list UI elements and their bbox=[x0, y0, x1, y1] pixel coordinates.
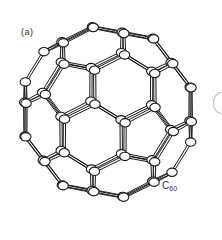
carbon-atom bbox=[150, 103, 160, 111]
carbon-atom bbox=[120, 119, 130, 127]
carbon-atom bbox=[149, 178, 159, 186]
bond bbox=[153, 130, 172, 160]
carbon-atom bbox=[186, 118, 196, 126]
carbon-atom bbox=[185, 138, 195, 146]
carbon-atom bbox=[186, 84, 196, 92]
carbon-atom bbox=[89, 167, 99, 175]
carbon-atom bbox=[168, 59, 178, 67]
bond bbox=[24, 51, 43, 81]
carbon-atom bbox=[40, 90, 50, 98]
carbon-atom bbox=[21, 99, 31, 107]
carbon-atom bbox=[90, 100, 100, 108]
carbon-atom bbox=[89, 188, 99, 196]
panel-label: (a) bbox=[21, 27, 34, 37]
carbon-atom bbox=[89, 66, 99, 74]
bond bbox=[171, 142, 190, 172]
carbon-atom bbox=[167, 168, 177, 176]
carbon-atom bbox=[120, 152, 130, 160]
carbon-atom bbox=[119, 51, 129, 59]
carbon-atom bbox=[58, 181, 68, 189]
carbon-atom bbox=[20, 78, 30, 86]
bond bbox=[154, 131, 173, 161]
carbon-atom bbox=[118, 193, 128, 201]
carbon-atom bbox=[150, 69, 160, 77]
molecule-label: C60 bbox=[162, 180, 177, 192]
carbon-atom bbox=[168, 127, 178, 135]
adjacent-panel-fragment bbox=[213, 92, 222, 114]
carbon-atom bbox=[59, 149, 69, 157]
bond bbox=[173, 143, 192, 173]
carbon-atom bbox=[40, 157, 50, 165]
carbon-atom bbox=[39, 47, 49, 55]
carbon-atom bbox=[21, 133, 31, 141]
bond bbox=[26, 52, 45, 82]
carbon-atom bbox=[59, 60, 69, 68]
molecule-label-subscript: 60 bbox=[169, 185, 177, 192]
carbon-atom bbox=[88, 23, 98, 31]
carbon-atom bbox=[58, 39, 68, 47]
bond bbox=[44, 64, 63, 94]
bond bbox=[44, 63, 63, 93]
carbon-atom bbox=[59, 115, 69, 123]
atoms bbox=[19, 23, 196, 202]
carbon-atom bbox=[150, 158, 160, 166]
carbon-atom bbox=[148, 35, 158, 43]
carbon-atom bbox=[119, 29, 129, 37]
